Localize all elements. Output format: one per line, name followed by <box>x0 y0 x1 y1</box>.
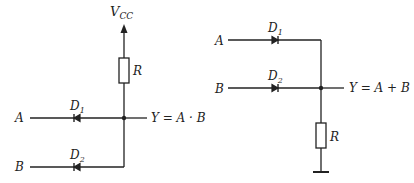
or-d2-label: D2 <box>267 69 283 85</box>
vcc-label: VCC <box>110 4 133 21</box>
and-d1-label: D1 <box>69 99 85 115</box>
and-resistor <box>119 58 129 83</box>
diode-d2-icon <box>74 163 80 171</box>
and-output-label: Y = A · B <box>151 111 206 125</box>
or-input-a-label: A <box>214 34 224 48</box>
and-d2-label: D2 <box>69 148 85 164</box>
or-resistor-label: R <box>329 130 339 144</box>
or-resistor <box>316 123 326 148</box>
and-resistor-label: R <box>132 64 142 78</box>
diode-d1-icon <box>74 114 80 122</box>
or-output-label: Y = A + B <box>349 81 410 95</box>
diode-d1-icon <box>272 36 278 44</box>
or-gate-circuit: A D1 B D2 R Y = A + B <box>214 21 410 172</box>
or-d1-label: D1 <box>267 21 283 37</box>
and-input-b-label: B <box>14 160 24 174</box>
diode-logic-diagram: VCC R A D1 B D2 Y = A · B A <box>0 0 414 183</box>
or-input-b-label: B <box>214 82 224 96</box>
and-input-a-label: A <box>14 111 24 125</box>
and-gate-circuit: VCC R A D1 B D2 Y = A · B <box>14 4 206 174</box>
diode-d2-icon <box>272 84 278 92</box>
